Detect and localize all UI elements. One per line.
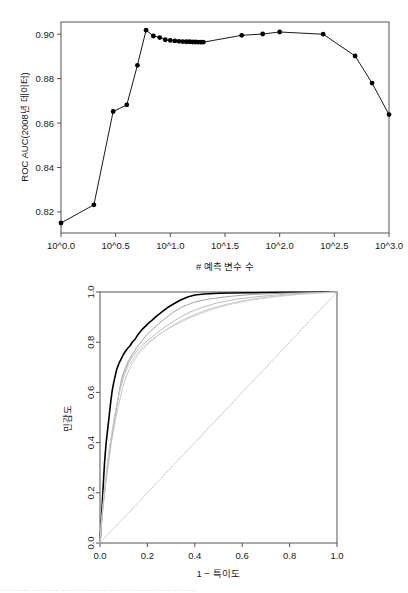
y-tick-label: 0.4 bbox=[85, 436, 96, 449]
x-tick-label: 10^2.5 bbox=[320, 240, 348, 251]
data-point bbox=[201, 40, 206, 45]
y-axis-title: 민감도 bbox=[62, 405, 73, 432]
x-tick-label: 10^0.5 bbox=[102, 240, 130, 251]
y-tick-label: 0.8 bbox=[85, 336, 96, 349]
y-tick-label: 0.2 bbox=[85, 486, 96, 499]
auc-vs-predictors-svg: 10^0.010^0.510^1.010^1.510^2.010^2.510^3… bbox=[0, 0, 408, 285]
x-axis-tick-labels: 10^0.010^0.510^1.010^1.510^2.010^2.510^3… bbox=[47, 240, 403, 251]
y-axis-ticks bbox=[96, 292, 100, 543]
auc-vs-predictors-figure: 10^0.010^0.510^1.010^1.510^2.010^2.510^3… bbox=[0, 0, 408, 285]
data-point bbox=[387, 112, 392, 117]
series-line bbox=[100, 292, 337, 543]
x-tick-label: 0.6 bbox=[236, 550, 249, 561]
x-tick-label: 10^0.0 bbox=[47, 240, 75, 251]
data-point bbox=[151, 34, 156, 39]
y-tick-label: 0.82 bbox=[36, 206, 55, 217]
caption-fragment: ⎯ ⎯⎯ ⎯⎯⎯ ⎯⎯ ⎯⎯⎯⎯ ⎯⎯⎯ ⎯⎯ ⎯⎯⎯⎯⎯ ⎯⎯⎯ ⎯⎯ ⎯⎯⎯… bbox=[0, 586, 408, 593]
data-point bbox=[59, 221, 64, 226]
x-tick-label: 0.8 bbox=[283, 550, 296, 561]
data-point bbox=[321, 32, 326, 37]
x-tick-label: 0.4 bbox=[188, 550, 201, 561]
plot-area: 0.00.20.40.60.81.0 0.00.20.40.60.81.0 bbox=[85, 285, 344, 561]
y-axis-tick-labels: 0.00.20.40.60.81.0 bbox=[85, 285, 96, 549]
y-axis-tick-labels: 0.820.840.860.880.90 bbox=[36, 29, 55, 218]
x-axis-ticks bbox=[100, 543, 337, 547]
x-tick-label: 10^1.5 bbox=[211, 240, 239, 251]
data-point bbox=[163, 37, 168, 42]
data-point bbox=[92, 202, 97, 207]
y-tick-label: 0.0 bbox=[85, 536, 96, 549]
x-tick-label: 10^1.0 bbox=[156, 240, 184, 251]
data-point bbox=[124, 102, 129, 107]
x-tick-label: 0.0 bbox=[93, 550, 106, 561]
x-tick-label: 10^3.0 bbox=[375, 240, 403, 251]
x-axis-tick-labels: 0.00.20.40.60.81.0 bbox=[93, 550, 343, 561]
data-point bbox=[277, 30, 282, 35]
x-tick-label: 0.2 bbox=[141, 550, 154, 561]
y-tick-label: 0.88 bbox=[36, 73, 55, 84]
plot-area: 10^0.010^0.510^1.010^1.510^2.010^2.510^3… bbox=[36, 22, 404, 251]
data-point bbox=[168, 38, 173, 43]
y-axis-ticks bbox=[57, 34, 61, 212]
x-axis-title: 1 − 특이도 bbox=[196, 568, 239, 579]
roc-curve-svg: 0.00.20.40.60.81.0 0.00.20.40.60.81.0 1 … bbox=[0, 285, 408, 585]
data-point bbox=[135, 63, 140, 68]
series-line bbox=[61, 30, 389, 223]
data-point bbox=[172, 38, 177, 43]
roc-curve-figure: 0.00.20.40.60.81.0 0.00.20.40.60.81.0 1 … bbox=[0, 285, 408, 585]
x-tick-label: 1.0 bbox=[330, 550, 343, 561]
y-tick-label: 0.6 bbox=[85, 386, 96, 399]
y-tick-label: 0.84 bbox=[36, 162, 55, 173]
data-point bbox=[111, 109, 116, 114]
y-tick-label: 1.0 bbox=[85, 285, 96, 298]
y-tick-label: 0.86 bbox=[36, 118, 55, 129]
data-point bbox=[353, 54, 358, 59]
x-tick-label: 10^2.0 bbox=[266, 240, 294, 251]
data-series-group bbox=[100, 292, 337, 543]
y-axis-title: ROC AUC(2008년 데이터) bbox=[19, 72, 30, 181]
y-tick-label: 0.90 bbox=[36, 29, 55, 40]
data-point bbox=[239, 33, 244, 38]
data-point bbox=[260, 32, 265, 37]
data-point bbox=[144, 28, 149, 33]
data-point bbox=[157, 35, 162, 40]
x-axis-title: # 예측 변수 수 bbox=[196, 261, 254, 272]
data-point bbox=[370, 81, 375, 86]
data-series-group bbox=[59, 28, 392, 226]
x-axis-ticks bbox=[61, 233, 389, 237]
